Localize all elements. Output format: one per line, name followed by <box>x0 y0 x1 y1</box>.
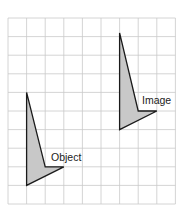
object-label: Object <box>51 152 81 163</box>
translation-diagram <box>0 0 181 217</box>
image-label: Image <box>142 95 171 106</box>
